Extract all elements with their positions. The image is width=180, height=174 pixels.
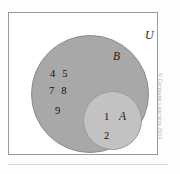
venn-diagram-figure: U B A 4 5 7 8 9 1 2 © Cengage Learning 2… — [0, 0, 180, 174]
universal-set-label: U — [145, 29, 154, 41]
bottom-divider — [8, 164, 168, 165]
set-a-circle — [83, 91, 142, 150]
set-a-element: 2 — [104, 131, 109, 142]
universal-set-box: U B A 4 5 7 8 9 1 2 — [8, 12, 158, 155]
set-a-element: 1 — [104, 112, 109, 123]
set-a-label: A — [119, 111, 126, 123]
copyright-notice: © Cengage Learning 2014 — [157, 73, 163, 140]
set-b-label: B — [113, 51, 120, 63]
set-b-element-row: 4 5 — [50, 69, 70, 80]
set-b-element-row: 7 8 — [49, 86, 69, 97]
set-b-element-row: 9 — [55, 106, 62, 117]
